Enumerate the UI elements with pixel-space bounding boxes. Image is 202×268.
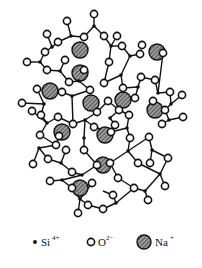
na-ion	[72, 42, 88, 58]
legend-item-si: Si 4+	[33, 234, 59, 248]
legend-charge-si: 4+	[52, 234, 60, 242]
na-hatched-icon	[137, 235, 151, 249]
legend-charge-o: 2−	[106, 234, 114, 242]
glass-network	[18, 10, 186, 216]
na-ion	[115, 92, 131, 108]
o-ring-icon	[87, 238, 94, 245]
sodium-silicate-network-diagram: Si 4+ O 2− Na +	[0, 0, 202, 268]
legend-item-na: Na +	[137, 234, 174, 249]
na-ion	[42, 83, 58, 99]
legend-label-o: O	[98, 236, 106, 248]
legend-charge-na: +	[170, 234, 174, 242]
si-dot-icon	[33, 240, 37, 244]
legend-label-na: Na	[155, 236, 168, 248]
legend: Si 4+ O 2− Na +	[33, 234, 174, 249]
legend-item-o: O 2−	[87, 234, 113, 248]
legend-label-si: Si	[41, 236, 50, 248]
